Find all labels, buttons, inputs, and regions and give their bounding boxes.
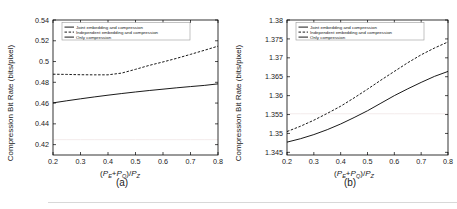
x-tick-label: 0.3 <box>76 157 86 166</box>
chart-panel-a: 0.20.30.40.50.60.70.8 0.420.440.460.480.… <box>0 0 228 190</box>
panel-caption-b-text: (b) <box>344 177 356 188</box>
legend-a: Joint embedding and compressionIndepende… <box>62 23 190 41</box>
y-tick-label: 0.46 <box>35 99 49 108</box>
x-tick-label: 0.4 <box>336 157 346 166</box>
series-independent-a <box>53 46 218 75</box>
curve-dashed <box>53 46 218 75</box>
y-tick-label: 1.375 <box>265 35 283 44</box>
plot-area-b <box>287 42 448 142</box>
y-tick-label: 1.355 <box>265 110 283 119</box>
y-tick-label: 1.38 <box>269 16 283 25</box>
chart-panel-b: 0.20.30.40.50.60.70.8 1.3451.351.3551.36… <box>228 0 456 190</box>
x-tick-label: 0.5 <box>363 157 373 166</box>
y-axis-title-b: Compression Bit Rate (bits/pixel) <box>234 44 243 161</box>
y-tick-label: 0.42 <box>35 140 49 149</box>
series-joint-a <box>53 84 218 103</box>
plot-area-a <box>53 46 218 139</box>
x-tick-label: 0.4 <box>103 157 113 166</box>
y-tick-label: 1.345 <box>265 148 283 157</box>
x-tick-label: 0.8 <box>213 157 223 166</box>
curve-dashed <box>287 42 448 132</box>
y-tick-label: 0.52 <box>35 36 49 45</box>
y-tick-label: 1.35 <box>269 129 283 138</box>
series-independent-b <box>287 42 448 132</box>
x-tick-label: 0.6 <box>158 157 168 166</box>
panel-caption-b: (b) <box>228 177 456 188</box>
legend-label: Only compression <box>76 35 112 40</box>
y-tick-label: 1.36 <box>269 91 283 100</box>
x-tick-label: 0.7 <box>186 157 196 166</box>
x-tick-label: 0.2 <box>48 157 58 166</box>
y-tick-label: 0.54 <box>35 16 49 25</box>
y-tick-labels-a: 0.420.440.460.480.50.520.54 <box>35 16 49 150</box>
x-tick-label: 0.7 <box>416 157 426 166</box>
series-joint-b <box>287 71 448 142</box>
bottom-divider <box>48 202 457 203</box>
y-tick-label: 1.365 <box>265 72 283 81</box>
y-tick-label: 0.44 <box>35 119 49 128</box>
figure-row: 0.20.30.40.50.60.70.8 0.420.440.460.480.… <box>0 0 457 190</box>
x-tick-label: 0.8 <box>443 157 453 166</box>
x-tick-labels-b: 0.20.30.40.50.60.70.8 <box>282 157 453 166</box>
y-tick-label: 0.5 <box>39 57 49 66</box>
legend-b: Joint embedding and compressionIndepende… <box>296 23 424 41</box>
x-tick-label: 0.6 <box>389 157 399 166</box>
x-tick-labels-a: 0.20.30.40.50.60.70.8 <box>48 157 223 166</box>
curve-solid <box>53 84 218 103</box>
panel-caption-a-text: (a) <box>116 177 128 188</box>
chart-svg-b: 0.20.30.40.50.60.70.8 1.3451.351.3551.36… <box>228 0 456 190</box>
legend-label: Only compression <box>310 35 346 40</box>
x-tick-label: 0.3 <box>309 157 319 166</box>
y-tick-label: 1.37 <box>269 53 283 62</box>
y-tick-labels-b: 1.3451.351.3551.361.3651.371.3751.38 <box>265 16 283 157</box>
curve-solid <box>287 71 448 142</box>
y-tick-label: 0.48 <box>35 78 49 87</box>
panel-caption-a: (a) <box>0 177 228 188</box>
y-axis-title-a: Compression Bit Rate (bits/pixel) <box>6 44 15 161</box>
x-tick-label: 0.2 <box>282 157 292 166</box>
chart-svg-a: 0.20.30.40.50.60.70.8 0.420.440.460.480.… <box>0 0 228 190</box>
x-tick-label: 0.5 <box>131 157 141 166</box>
